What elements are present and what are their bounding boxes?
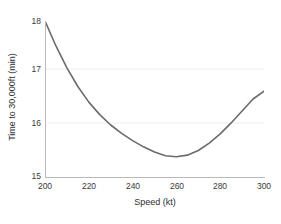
x-tick-label-200: 200 [30, 181, 60, 191]
y-tick-label-18: 18 [32, 17, 41, 26]
data-series-line [45, 21, 264, 157]
y-tick-label-16: 16 [32, 119, 41, 128]
y-tick-label-17: 17 [32, 65, 41, 74]
x-axis-line [45, 177, 265, 178]
x-tick-label-260: 260 [162, 181, 192, 191]
x-tick-label-220: 220 [74, 181, 104, 191]
y-axis-title: Time to 30,000ft (min) [7, 27, 17, 167]
plot-area [45, 21, 264, 177]
y-tick-label-15: 15 [32, 172, 41, 181]
y-axis-title-wrapper: Time to 30,000ft (min) [0, 0, 20, 224]
x-tick-label-280: 280 [205, 181, 235, 191]
x-tick-label-300: 300 [249, 181, 279, 191]
y-axis-line [45, 21, 46, 178]
x-axis-title: Speed (kt) [45, 197, 265, 207]
chart-figure: 18 17 16 15 200 220 240 260 280 300 Spee… [0, 0, 281, 224]
plot-svg [45, 21, 264, 177]
x-tick-label-240: 240 [118, 181, 148, 191]
